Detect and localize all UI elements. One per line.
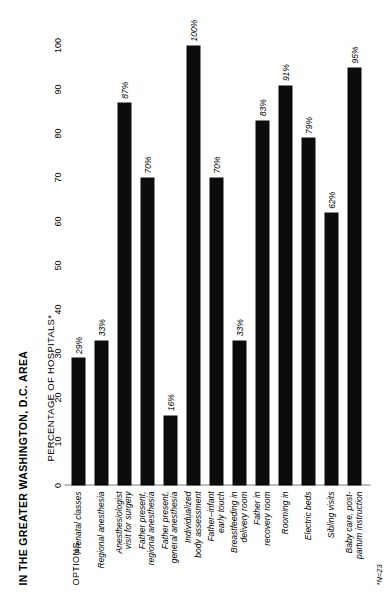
bar-row: Father present, regional anesthesia70% — [140, 45, 154, 485]
bar — [255, 120, 269, 485]
bar — [94, 340, 108, 485]
x-tick-30: 30 — [52, 348, 62, 358]
bar-row: Father in recovery room83% — [255, 45, 269, 485]
bar — [232, 340, 246, 485]
footnote: *N=23 — [374, 564, 383, 585]
bar-row: Baby care, post- partum instruction95% — [347, 45, 361, 485]
category-label: Anesthesiologist visit for surgery — [114, 491, 133, 611]
bar-row: Anesthesiologist visit for surgery87% — [117, 45, 131, 485]
category-label: Individualized body assessment — [183, 491, 202, 611]
category-label: Regional anesthesia — [96, 491, 106, 611]
bar-value-label: 70% — [211, 156, 221, 173]
bar — [209, 177, 223, 485]
bar-row: Breastfeeding in delivery room33% — [232, 45, 246, 485]
category-label: Father present, regional anesthesia — [137, 491, 156, 611]
bar — [347, 67, 361, 485]
bar-row: Sibling visits62% — [324, 45, 338, 485]
bar-row: Father–infant early touch70% — [209, 45, 223, 485]
bar-value-label: 91% — [280, 64, 290, 81]
category-label: Rooming in — [280, 491, 290, 611]
x-tick-50: 50 — [52, 260, 62, 270]
bar-value-label: 100% — [188, 19, 198, 41]
x-tick-10: 10 — [52, 436, 62, 446]
x-tick-90: 90 — [52, 84, 62, 94]
bar — [140, 177, 154, 485]
bar-rows: Prenatal classes29%Regional anesthesia33… — [66, 45, 366, 485]
x-tick-100: 100 — [52, 37, 62, 52]
category-label: Father present, general anesthesia — [160, 491, 179, 611]
plot-area: Prenatal classes29%Regional anesthesia33… — [66, 45, 366, 485]
bar-value-label: 70% — [142, 156, 152, 173]
bar-value-label: 33% — [96, 319, 106, 336]
page-title: IN THE GREATER WASHINGTON, D.C. AREA — [16, 350, 28, 585]
chart-figure: IN THE GREATER WASHINGTON, D.C. AREA PER… — [0, 0, 391, 611]
category-label: Breastfeeding in delivery room — [229, 491, 248, 611]
bar — [71, 357, 85, 485]
x-tick-40: 40 — [52, 304, 62, 314]
rotated-figure-container: IN THE GREATER WASHINGTON, D.C. AREA PER… — [0, 0, 391, 611]
bar-row: Rooming in91% — [278, 45, 292, 485]
x-axis-tick-labels: 0102030405060708090100 — [52, 45, 66, 485]
bar-row: Prenatal classes29% — [71, 45, 85, 485]
bar-value-label: 79% — [303, 116, 313, 133]
bar-value-label: 83% — [257, 99, 267, 116]
x-tick-20: 20 — [52, 392, 62, 402]
bar-value-label: 33% — [234, 319, 244, 336]
x-tick-80: 80 — [52, 128, 62, 138]
x-tick-0: 0 — [52, 482, 62, 487]
bar-value-label: 62% — [326, 191, 336, 208]
bar-row: Individualized body assessment100% — [186, 45, 200, 485]
bar — [278, 85, 292, 485]
category-label: Sibling visits — [327, 491, 337, 611]
category-label: Prenatal classes — [73, 491, 83, 611]
bar-value-label: 95% — [349, 46, 359, 63]
bar-row: Electric beds79% — [301, 45, 315, 485]
bar — [163, 415, 177, 485]
bar — [324, 212, 338, 485]
category-label: Baby care, post- partum instruction — [345, 491, 364, 611]
bar-value-label: 87% — [119, 81, 129, 98]
category-label: Electric beds — [304, 491, 314, 611]
bar — [117, 102, 131, 485]
x-tick-60: 60 — [52, 216, 62, 226]
x-tick-70: 70 — [52, 172, 62, 182]
bar — [301, 137, 315, 485]
bar-row: Father present, general anesthesia16% — [163, 45, 177, 485]
bar-value-label: 16% — [165, 394, 175, 411]
bar-row: Regional anesthesia33% — [94, 45, 108, 485]
category-label: Father–infant early touch — [206, 491, 225, 611]
category-label: Father in recovery room — [253, 491, 272, 611]
bar-value-label: 29% — [73, 336, 83, 353]
bar — [186, 45, 200, 485]
